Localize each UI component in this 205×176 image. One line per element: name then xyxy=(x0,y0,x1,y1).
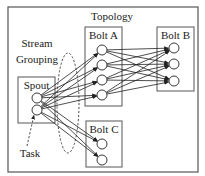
boltA-task-1 xyxy=(97,45,107,55)
topology-title: Topology xyxy=(91,10,134,22)
task-label: Task xyxy=(20,147,41,159)
boltC-task-2 xyxy=(97,155,107,165)
stream-label: Stream xyxy=(21,37,53,49)
storm-topology-diagram: Topology Stream Grouping SpoutBolt ABolt… xyxy=(0,0,205,176)
boltA-task-3 xyxy=(97,75,107,85)
boltA-task-4 xyxy=(97,90,107,100)
boltA-task-2 xyxy=(97,60,107,70)
spout-task-2 xyxy=(32,105,42,115)
boltA-label: Bolt A xyxy=(89,29,118,41)
boltC-label: Bolt C xyxy=(89,123,118,135)
boltB-task-2 xyxy=(169,59,179,69)
spout-task-1 xyxy=(32,93,42,103)
boltB-label: Bolt B xyxy=(161,29,190,41)
boltB-task-1 xyxy=(169,43,179,53)
grouping-label: Grouping xyxy=(16,53,59,65)
boltB-task-3 xyxy=(169,76,179,86)
spout-label: Spout xyxy=(24,79,50,91)
boltC-task-1 xyxy=(97,139,107,149)
